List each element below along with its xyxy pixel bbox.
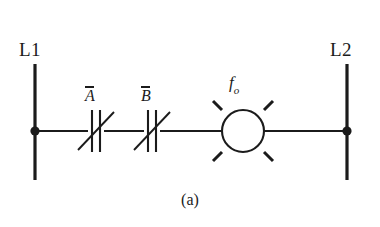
lamp-ray-lower-left bbox=[213, 152, 222, 161]
output-lamp-symbol bbox=[213, 101, 273, 161]
contact-a-label-text: A bbox=[85, 86, 95, 104]
left-junction-dot bbox=[30, 126, 39, 135]
output-lamp-label: fo bbox=[229, 74, 239, 94]
contact-a-label: A bbox=[85, 86, 95, 104]
figure-caption: (a) bbox=[0, 192, 380, 208]
lamp-label-subscript: o bbox=[234, 84, 240, 96]
right-rail-label: L2 bbox=[330, 40, 352, 59]
contact-b-label: B bbox=[141, 86, 151, 104]
lamp-circle bbox=[222, 110, 264, 152]
lamp-ray-upper-right bbox=[264, 101, 273, 110]
contact-b-label-text: B bbox=[141, 86, 151, 104]
left-rail-label: L1 bbox=[19, 40, 41, 59]
lamp-ray-upper-left bbox=[213, 101, 222, 110]
right-junction-dot bbox=[342, 126, 351, 135]
ladder-diagram-figure: L1 L2 A B fo (a) bbox=[0, 0, 380, 227]
lamp-ray-lower-right bbox=[264, 152, 273, 161]
